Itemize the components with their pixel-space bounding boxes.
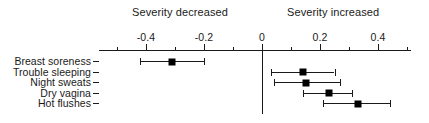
point-estimate-marker [169, 58, 176, 65]
category-tick [93, 103, 99, 104]
x-tick-mark-major [204, 44, 205, 51]
point-estimate-marker [299, 69, 306, 76]
confidence-interval-cap [335, 69, 336, 76]
category-tick [93, 72, 99, 73]
category-tick [93, 61, 99, 62]
x-tick-mark-major [378, 44, 379, 51]
forest-plot: Severity decreased Severity increased -0… [0, 0, 429, 123]
x-tick-mark-major [320, 44, 321, 51]
confidence-interval-cap [340, 79, 341, 86]
confidence-interval-cap [390, 100, 391, 107]
category-tick [93, 93, 99, 94]
y-axis-category-labels: Breast sorenessTrouble sleepingNight swe… [0, 0, 91, 123]
point-estimate-marker [302, 79, 309, 86]
category-label: Hot flushes [38, 97, 91, 109]
confidence-interval-cap [303, 90, 304, 97]
x-tick-label: -0.2 [195, 31, 214, 43]
confidence-interval-cap [140, 58, 141, 65]
point-estimate-marker [354, 100, 361, 107]
category-tick [93, 82, 99, 83]
x-tick-label: 0.4 [371, 31, 386, 43]
x-tick-mark-minor [407, 47, 408, 51]
confidence-interval-cap [271, 69, 272, 76]
x-tick-mark-minor [291, 47, 292, 51]
confidence-interval-cap [204, 58, 205, 65]
x-tick-mark-major [146, 44, 147, 51]
confidence-interval-cap [274, 79, 275, 86]
point-estimate-marker [325, 90, 332, 97]
x-tick-mark-minor [233, 47, 234, 51]
x-tick-mark-minor [349, 47, 350, 51]
x-tick-mark-minor [117, 47, 118, 51]
x-tick-mark-major [262, 44, 263, 51]
confidence-interval-cap [352, 90, 353, 97]
x-tick-label: -0.4 [137, 31, 156, 43]
x-tick-label: 0.2 [313, 31, 328, 43]
severity-decreased-label: Severity decreased [132, 6, 228, 18]
zero-reference-line [262, 51, 263, 114]
x-tick-label: 0 [259, 31, 265, 43]
severity-increased-label: Severity increased [287, 6, 379, 18]
confidence-interval-cap [323, 100, 324, 107]
x-tick-mark-minor [175, 47, 176, 51]
